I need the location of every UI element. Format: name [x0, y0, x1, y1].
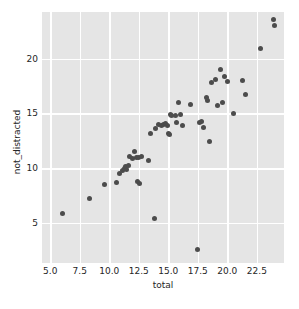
data-point: [220, 100, 225, 105]
x-tick-label: 5.0: [43, 266, 57, 276]
gridline-horizontal: [42, 113, 284, 115]
gridline-vertical: [168, 12, 170, 263]
x-tick-label: 22.5: [247, 266, 267, 276]
x-tick-label: 17.5: [188, 266, 208, 276]
y-axis-label: not_distracted: [12, 82, 22, 202]
data-point: [102, 182, 107, 187]
gridline-vertical: [109, 12, 111, 263]
data-point: [176, 100, 181, 105]
gridline-vertical: [139, 12, 141, 263]
x-axis-label: total: [42, 280, 284, 290]
data-point: [167, 132, 172, 137]
data-point: [272, 23, 277, 28]
x-tick-label: 10.0: [99, 266, 119, 276]
gridline-horizontal: [42, 223, 284, 225]
data-point: [207, 139, 212, 144]
gridline-vertical: [80, 12, 82, 263]
data-point: [201, 125, 206, 130]
data-point: [60, 211, 65, 216]
data-point: [243, 92, 248, 97]
data-point: [271, 17, 276, 22]
data-point: [218, 67, 223, 72]
x-tick-label: 15.0: [158, 266, 178, 276]
x-tick-label: 12.5: [129, 266, 149, 276]
data-point: [225, 79, 230, 84]
x-tick-label: 7.5: [73, 266, 87, 276]
data-point: [231, 111, 236, 116]
gridline-horizontal: [42, 168, 284, 170]
data-point: [87, 196, 92, 201]
plot-area: [42, 12, 284, 263]
data-point: [139, 154, 144, 159]
data-point: [258, 46, 263, 51]
data-point: [152, 216, 157, 221]
data-point: [153, 126, 158, 131]
data-point: [199, 119, 204, 124]
data-point: [146, 158, 151, 163]
y-tick-label: 5: [18, 218, 38, 228]
x-tick-label: 20.0: [217, 266, 237, 276]
data-point: [148, 131, 153, 136]
data-point: [137, 181, 142, 186]
scatter-plot-figure: 5.07.510.012.515.017.520.022.5 5101520 t…: [0, 0, 299, 309]
gridline-vertical: [227, 12, 229, 263]
data-point: [188, 102, 193, 107]
data-point: [195, 247, 200, 252]
data-point: [178, 112, 183, 117]
data-point: [205, 98, 210, 103]
data-point: [132, 149, 137, 154]
data-point: [213, 77, 218, 82]
data-point: [240, 78, 245, 83]
y-tick-label: 20: [18, 54, 38, 64]
gridline-vertical: [198, 12, 200, 263]
data-point: [114, 180, 119, 185]
data-point: [174, 120, 179, 125]
gridline-vertical: [50, 12, 52, 263]
data-point: [180, 123, 185, 128]
data-point: [165, 123, 170, 128]
gridline-horizontal: [42, 59, 284, 61]
